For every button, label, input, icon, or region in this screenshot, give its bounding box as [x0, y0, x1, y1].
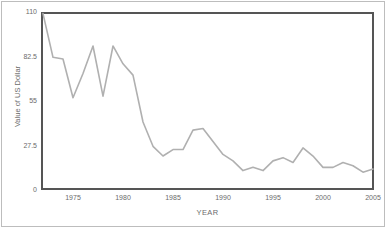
x-tick-label: 1990	[203, 194, 243, 201]
x-tick-label: 1995	[253, 194, 293, 201]
data-series-line	[43, 14, 373, 173]
x-tick-label: 1975	[53, 194, 93, 201]
x-axis-title: YEAR	[41, 208, 374, 217]
chart-container: 027.55582.5110 1975198019851990199520002…	[0, 0, 387, 229]
y-axis-title: Value of US Dollar	[13, 42, 22, 152]
x-tick-label: 1985	[153, 194, 193, 201]
x-tick-label: 2000	[303, 194, 343, 201]
x-tick-label: 2005	[353, 194, 387, 201]
x-tick-label: 1980	[103, 194, 143, 201]
plot-svg	[41, 12, 374, 190]
y-axis-title-holder: Value of US Dollar	[0, 0, 20, 190]
